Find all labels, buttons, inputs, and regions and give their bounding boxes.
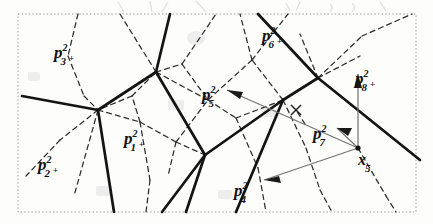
vector-arrowheads: [227, 74, 362, 183]
voronoi-edges: [22, 14, 420, 212]
label-p2-sup: 2: [47, 154, 52, 165]
label-p2-sub: 2: [45, 167, 51, 179]
label-p1-sub: 1: [131, 141, 137, 153]
arrowhead-p5: [227, 90, 243, 99]
scan-artifacts: [118, 1, 386, 12]
label-p6-sub: 6: [269, 38, 275, 50]
vector-to-p5: [227, 90, 358, 148]
label-p6: p26+: [262, 27, 286, 48]
label-p8: p28+: [355, 70, 379, 91]
label-p3-sup: 2: [63, 42, 68, 53]
label-p3-marker: +: [69, 53, 74, 63]
figure-canvas: p23+ p22+ p21+ p25 p26+ p28+ p27 p24 x5: [0, 0, 433, 224]
delaunay-edges: [26, 14, 412, 212]
label-p1-marker: +: [139, 139, 144, 149]
vector-to-p4: [264, 148, 358, 180]
label-p1-sup: 2: [133, 128, 138, 139]
label-p7-sub: 7: [320, 136, 326, 148]
label-p5: p25: [202, 86, 221, 107]
label-p7-sup: 2: [322, 123, 327, 134]
label-p6-sup: 2: [271, 25, 276, 36]
label-p5-sub: 5: [209, 97, 215, 109]
label-x5: x5: [358, 152, 372, 171]
label-p4-sup: 2: [243, 180, 248, 191]
label-p2: p22+: [38, 156, 62, 177]
label-p8-sub: 8: [362, 81, 368, 93]
label-p4-sub: 4: [241, 193, 247, 205]
label-p7: p27: [313, 125, 332, 146]
label-p4: p24: [234, 182, 253, 203]
label-p3: p23+: [54, 44, 78, 65]
voronoi-delaunay-svg: [0, 0, 433, 224]
label-p6-marker: +: [277, 36, 282, 46]
label-p5-sup: 2: [211, 84, 216, 95]
label-p8-marker: +: [370, 79, 375, 89]
label-p1: p21+: [124, 130, 148, 151]
label-p8-sup: 2: [364, 68, 369, 79]
label-p3-sub: 3: [61, 55, 67, 67]
label-p2-marker: +: [53, 165, 58, 175]
cross-marker: [291, 105, 301, 115]
site-point-x5: [355, 145, 360, 150]
label-x5-sub: 5: [365, 162, 371, 174]
